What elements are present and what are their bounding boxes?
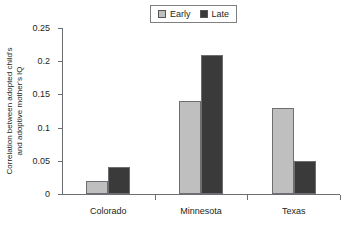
y-axis-tick	[58, 61, 62, 62]
x-axis-tick	[247, 195, 248, 200]
x-axis-tick	[340, 195, 341, 200]
legend-entry-early[interactable]: Early	[158, 10, 191, 19]
y-axis-tick-label: 0	[45, 190, 50, 199]
x-axis-tick-label: Minnesota	[180, 206, 222, 216]
legend-label-early: Early	[170, 10, 191, 19]
legend-entry-late[interactable]: Late	[200, 10, 230, 19]
y-axis-label-line-2: and adoptive mother's IQ	[15, 48, 25, 175]
plot-area: 00.050.10.150.20.25 ColoradoMinnesotaTex…	[62, 28, 340, 194]
y-axis-tick	[58, 194, 62, 195]
y-axis-tick-label: 0.05	[32, 156, 50, 165]
y-axis-label-line-1: Correlation between adopted child's	[5, 48, 14, 175]
x-axis-tick	[155, 195, 156, 200]
y-axis-tick-label: 0.25	[32, 24, 50, 33]
y-axis-tick	[58, 161, 62, 162]
y-axis-tick	[58, 28, 62, 29]
y-axis-tick-label: 0.1	[37, 123, 50, 132]
x-axis-tick-label: Texas	[282, 206, 306, 216]
y-axis-tick-label: 0.2	[37, 57, 50, 66]
y-axis-tick	[58, 128, 62, 129]
x-axis-line	[62, 194, 340, 195]
bar-colorado-late[interactable]	[108, 167, 130, 194]
legend-swatch-early	[158, 10, 166, 18]
bar-colorado-early[interactable]	[86, 181, 108, 194]
y-axis-tick-label: 0.15	[32, 90, 50, 99]
y-axis-tick	[58, 94, 62, 95]
chart-figure: Early Late Correlation between adopted c…	[0, 0, 352, 225]
y-axis-line	[62, 28, 63, 195]
bar-texas-early[interactable]	[272, 108, 294, 194]
legend-label-late: Late	[212, 10, 230, 19]
chart-legend: Early Late	[150, 5, 237, 23]
x-axis-tick-label: Colorado	[90, 206, 127, 216]
legend-swatch-late	[200, 10, 208, 18]
bar-texas-late[interactable]	[294, 161, 316, 194]
y-axis-label: Correlation between adopted child's and …	[5, 48, 25, 175]
y-axis-label-container: Correlation between adopted child's and …	[0, 28, 30, 194]
bar-minnesota-late[interactable]	[201, 55, 223, 194]
bar-minnesota-early[interactable]	[179, 101, 201, 194]
